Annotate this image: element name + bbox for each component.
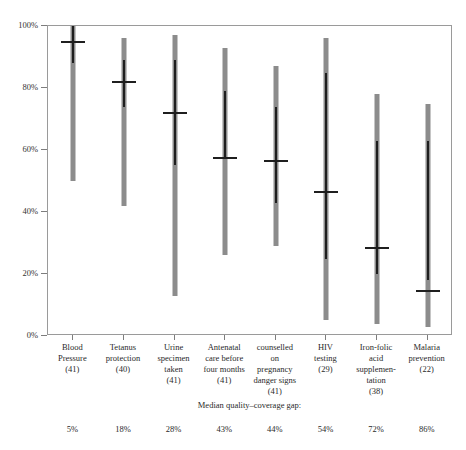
gap-value: 18% <box>98 424 149 435</box>
x-axis-category-line: care before <box>199 353 250 364</box>
x-axis-category-line: Tetanus <box>98 342 149 353</box>
y-tick-label-40: 40% <box>22 207 38 216</box>
x-axis-category-line: counselled <box>250 342 301 353</box>
y-tick-label-80: 80% <box>22 83 38 92</box>
data-series-group <box>301 26 352 336</box>
iqr-bar <box>376 141 378 274</box>
x-axis-category-line: pregnancy <box>250 364 301 375</box>
x-axis-category-line: specimen <box>148 353 199 364</box>
iqr-bar <box>123 60 125 107</box>
median-marker <box>416 290 440 292</box>
x-axis-category-line: Antenatal <box>199 342 250 353</box>
iqr-bar <box>72 26 74 63</box>
x-axis-category-line: Iron-folic <box>351 342 402 353</box>
x-axis-category-line: on <box>250 353 301 364</box>
median-marker <box>365 247 389 249</box>
y-tick-label-100: 100% <box>18 21 38 30</box>
x-axis-category-line: (41) <box>250 386 301 397</box>
data-series-group <box>48 26 99 336</box>
x-axis-category-line: HIV <box>300 342 351 353</box>
median-marker <box>163 112 187 114</box>
iqr-bar <box>427 141 429 281</box>
x-tick-mark <box>174 335 175 340</box>
x-axis-category-label: BloodPressure(41) <box>47 342 98 375</box>
y-axis: 100% 80% 60% 40% 20% 0% <box>0 25 47 335</box>
gap-value: 44% <box>250 424 301 435</box>
data-series-group <box>149 26 200 336</box>
x-tick-mark <box>72 335 73 340</box>
y-tick-label-20: 20% <box>22 269 38 278</box>
x-axis-category-line: (38) <box>351 386 402 397</box>
x-axis-category-line: Blood <box>47 342 98 353</box>
median-marker <box>264 160 288 162</box>
gap-value: 5% <box>47 424 98 435</box>
x-tick-mark <box>376 335 377 340</box>
x-axis-category-line: prevention <box>401 353 452 364</box>
x-axis-category-label: Malariaprevention(22) <box>401 342 452 375</box>
median-marker <box>112 81 136 83</box>
x-tick-mark <box>275 335 276 340</box>
x-axis-category-line: protection <box>98 353 149 364</box>
plot-area <box>47 25 452 335</box>
x-tick-mark <box>224 335 225 340</box>
x-tick-mark <box>325 335 326 340</box>
x-axis-category-line: four months <box>199 364 250 375</box>
y-tick-label-60: 60% <box>22 145 38 154</box>
iqr-bar <box>224 91 226 159</box>
x-axis-category-line: (29) <box>300 364 351 375</box>
gap-value: 54% <box>300 424 351 435</box>
data-series-group <box>251 26 302 336</box>
median-marker <box>314 191 338 193</box>
data-series-group <box>200 26 251 336</box>
data-series-group <box>352 26 403 336</box>
x-tick-mark <box>123 335 124 340</box>
y-tick-mark-0 <box>41 335 47 336</box>
x-axis-category-line: supplemen- <box>351 364 402 375</box>
x-axis-category-label: Urinespecimentaken(41) <box>148 342 199 386</box>
data-series-group <box>402 26 453 336</box>
x-axis-category-line: Pressure <box>47 353 98 364</box>
gap-value: 28% <box>148 424 199 435</box>
x-axis-category-line: (41) <box>47 364 98 375</box>
x-axis-category-line: Malaria <box>401 342 452 353</box>
x-tick-mark <box>427 335 428 340</box>
gap-values-row: 5%18%28%43%44%54%72%86% <box>47 424 452 438</box>
median-gap-caption: Median quality–coverage gap: <box>47 400 452 411</box>
x-axis-category-line: (41) <box>148 375 199 386</box>
iqr-bar <box>275 107 277 203</box>
data-series-group <box>99 26 150 336</box>
gap-value: 72% <box>351 424 402 435</box>
gap-value: 43% <box>199 424 250 435</box>
x-axis-category-label: Antenatalcare beforefour months(41) <box>199 342 250 386</box>
x-axis-category-line: Urine <box>148 342 199 353</box>
x-axis-category-line: testing <box>300 353 351 364</box>
x-axis-category-line: acid <box>351 353 402 364</box>
x-axis-category-line: tation <box>351 375 402 386</box>
x-axis-labels: BloodPressure(41)Tetanusprotection(40)Ur… <box>47 342 452 402</box>
gap-value: 86% <box>401 424 452 435</box>
x-axis-category-line: (22) <box>401 364 452 375</box>
x-axis-category-line: danger signs <box>250 375 301 386</box>
iqr-bar <box>325 73 327 259</box>
x-axis-category-line: taken <box>148 364 199 375</box>
y-tick-label-0: 0% <box>27 331 38 340</box>
x-axis-category-label: Tetanusprotection(40) <box>98 342 149 375</box>
x-axis-category-line: (41) <box>199 375 250 386</box>
median-marker <box>213 157 237 159</box>
median-marker <box>61 41 85 43</box>
x-axis-category-label: Iron-folicacidsupplemen-tation(38) <box>351 342 402 397</box>
chart-figure: 100% 80% 60% 40% 20% 0% BloodPressure(41… <box>0 0 466 450</box>
x-axis-category-line: (40) <box>98 364 149 375</box>
x-axis-category-label: counselledonpregnancydanger signs(41) <box>250 342 301 397</box>
x-axis-category-label: HIVtesting(29) <box>300 342 351 375</box>
